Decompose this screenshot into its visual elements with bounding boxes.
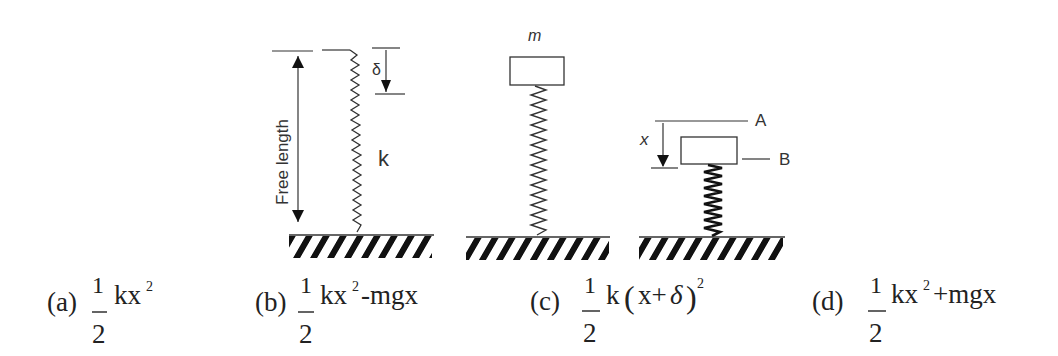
fraction-denominator: 2 (92, 319, 106, 349)
position-a-label: A (755, 111, 767, 130)
option-b[interactable]: (b) 1 2 kx 2 -mgx (255, 272, 418, 349)
option-d-label: (d) (812, 286, 843, 316)
paren-close: ) (686, 279, 697, 315)
mass-block (510, 57, 564, 85)
arrow-down-icon (381, 80, 391, 92)
ground-hatch (466, 238, 609, 260)
option-c-label: (c) (530, 286, 560, 316)
spring-icon (350, 50, 361, 232)
option-b-expression-tail: -mgx (361, 280, 418, 310)
paren-open: ( (624, 279, 635, 315)
stiffness-label: k (378, 146, 390, 171)
loaded-spring-figure: m (466, 27, 610, 260)
arrow-down-icon (292, 210, 304, 222)
delta-symbol: δ (670, 280, 683, 310)
exponent: 2 (352, 279, 359, 294)
fraction-denominator: 2 (299, 319, 313, 349)
ground-hatch (289, 236, 432, 258)
exponent: 2 (146, 279, 153, 294)
position-b-label: B (779, 150, 790, 169)
displacement-label: x (639, 130, 649, 149)
spring-icon (704, 165, 722, 236)
fraction-numerator: 1 (870, 272, 882, 298)
spring-icon (531, 86, 546, 235)
ground-hatch (639, 238, 783, 260)
option-c-inner: x+ (638, 280, 667, 310)
mass-block (681, 137, 737, 164)
option-a-label: (a) (47, 287, 77, 317)
option-c[interactable]: (c) 1 2 k ( x+ δ ) 2 (530, 272, 704, 348)
fraction-denominator: 2 (869, 318, 883, 348)
option-d-expression: kx (891, 279, 919, 309)
option-b-expression: kx (320, 280, 348, 310)
fraction-numerator: 1 (92, 272, 104, 298)
free-length-label: Free length (273, 119, 292, 205)
option-d[interactable]: (d) 1 2 kx 2 +mgx (812, 272, 997, 348)
option-a-expression: kx (114, 280, 142, 310)
option-c-expression: k (606, 280, 620, 310)
exponent: 2 (923, 278, 930, 293)
arrow-down-icon (657, 155, 669, 167)
fraction-numerator: 1 (584, 272, 596, 298)
compressed-spring-figure: A x B (639, 111, 790, 260)
option-a[interactable]: (a) 1 2 kx 2 (47, 272, 153, 349)
mass-label: m (528, 27, 541, 44)
free-spring-figure: δ Free length k (272, 48, 434, 258)
fraction-denominator: 2 (583, 318, 597, 348)
delta-label: δ (372, 61, 381, 78)
fraction-numerator: 1 (300, 272, 312, 298)
option-d-expression-tail: +mgx (933, 279, 997, 309)
arrow-up-icon (292, 56, 304, 68)
option-b-label: (b) (255, 287, 286, 317)
exponent: 2 (697, 276, 704, 291)
